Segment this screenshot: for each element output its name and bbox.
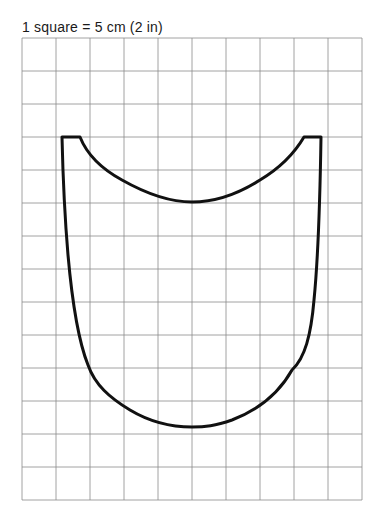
grid <box>22 38 362 500</box>
pattern-grid-diagram <box>0 0 379 525</box>
pattern-outline <box>62 137 321 427</box>
